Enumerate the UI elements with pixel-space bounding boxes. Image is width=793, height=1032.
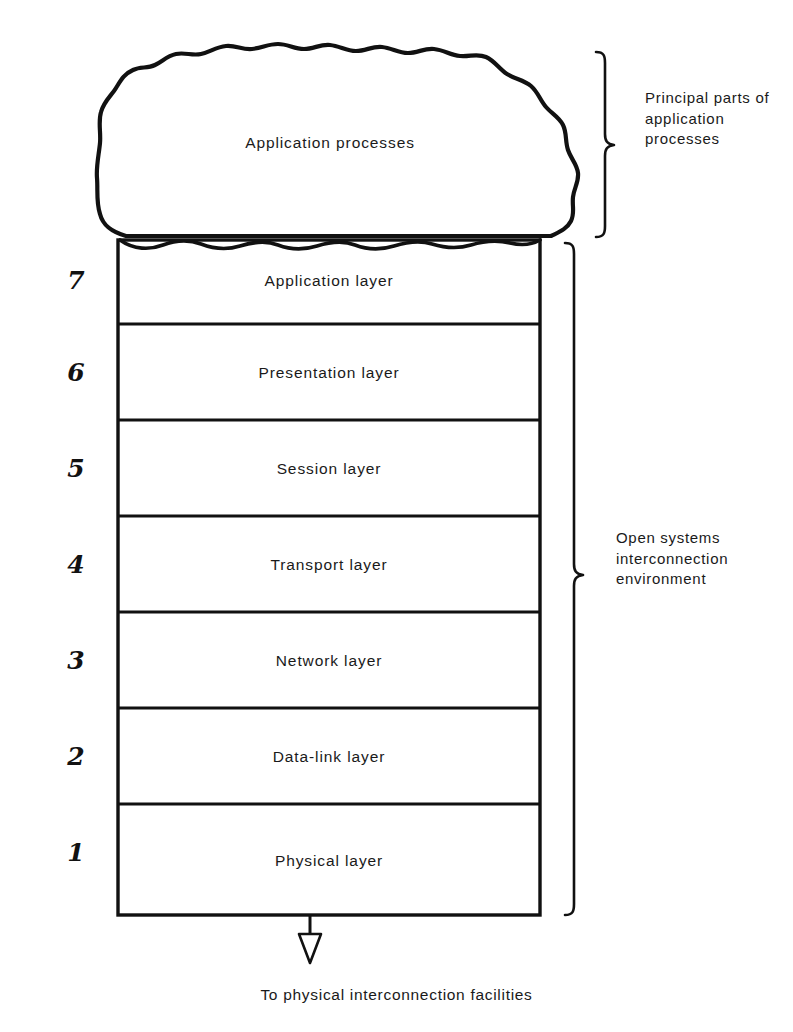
layer-number-5: 5 bbox=[56, 454, 96, 483]
layer-label-network: Network layer bbox=[118, 652, 540, 670]
annotation-principal-parts: Principal parts of application processes bbox=[645, 88, 790, 150]
layer-label-application: Application layer bbox=[118, 272, 540, 290]
layer-stack-outer-frame bbox=[118, 240, 540, 915]
layer-number-3: 3 bbox=[56, 646, 96, 675]
layer-number-1: 1 bbox=[56, 838, 96, 867]
layer-number-4: 4 bbox=[56, 550, 96, 579]
layer-number-7: 7 bbox=[56, 266, 96, 295]
layer-label-data-link: Data-link layer bbox=[118, 748, 540, 766]
layer-label-physical: Physical layer bbox=[118, 852, 540, 870]
layer-label-transport: Transport layer bbox=[118, 556, 540, 574]
diagram-canvas bbox=[0, 0, 793, 1032]
bottom-brace bbox=[565, 243, 583, 915]
top-brace bbox=[596, 52, 614, 237]
arrow-head-triangle bbox=[299, 934, 321, 963]
osi-layer-diagram: Application processes 7 6 5 4 3 2 1 Appl… bbox=[0, 0, 793, 1032]
layer-number-2: 2 bbox=[56, 742, 96, 771]
annotation-osi-environment: Open systems interconnection environment bbox=[616, 528, 791, 590]
application-processes-label: Application processes bbox=[118, 134, 542, 152]
layer-label-presentation: Presentation layer bbox=[118, 364, 540, 382]
arrow-caption: To physical interconnection facilities bbox=[0, 986, 793, 1004]
layer-label-session: Session layer bbox=[118, 460, 540, 478]
layer-number-6: 6 bbox=[56, 358, 96, 387]
